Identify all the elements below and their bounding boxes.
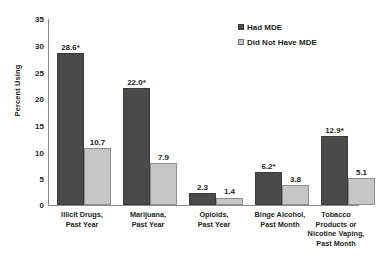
legend-item-no-mde[interactable]: Did Not Have MDE xyxy=(238,37,317,47)
x-label-line: Nicotine Vaping, xyxy=(305,229,367,239)
bar-value-no-mde-opioids: 1.4 xyxy=(206,187,253,196)
x-label-tobacco: Tobacco Products or Nicotine Vaping, Pas… xyxy=(305,210,367,248)
y-tick-10: 10 xyxy=(24,150,44,158)
x-label-line: Past Month xyxy=(305,239,367,249)
y-axis-title: Percent Using xyxy=(13,36,22,146)
bar-had-mde-marijuana[interactable] xyxy=(123,88,150,205)
bar-had-mde-illicit-drugs[interactable] xyxy=(57,53,84,205)
bar-no-mde-opioids[interactable] xyxy=(216,198,243,205)
bar-value-no-mde-marijuana: 7.9 xyxy=(140,153,187,162)
bar-no-mde-illicit-drugs[interactable] xyxy=(84,148,111,205)
legend-label-had-mde: Had MDE xyxy=(247,23,282,32)
y-tick-25: 25 xyxy=(24,70,44,78)
y-axis-tick-labels: 35 30 25 20 15 10 5 0 xyxy=(22,0,44,267)
y-tick-0: 0 xyxy=(24,202,44,210)
light-square-swatch-icon xyxy=(238,39,244,45)
bar-value-had-mde-marijuana: 22.0* xyxy=(113,78,160,87)
y-tick-20: 20 xyxy=(24,96,44,104)
legend: Had MDE Did Not Have MDE xyxy=(238,22,317,52)
legend-item-had-mde[interactable]: Had MDE xyxy=(238,22,317,32)
bar-value-no-mde-binge-alcohol: 3.8 xyxy=(272,175,319,184)
y-tick-5: 5 xyxy=(24,176,44,184)
x-label-line: Products or xyxy=(305,220,367,230)
bar-no-mde-marijuana[interactable] xyxy=(150,163,177,205)
x-axis-line xyxy=(48,205,359,206)
bar-value-no-mde-tobacco: 5.1 xyxy=(338,168,379,177)
bar-value-had-mde-tobacco: 12.9* xyxy=(311,126,358,135)
dark-square-swatch-icon xyxy=(238,24,244,30)
bar-value-had-mde-binge-alcohol: 6.2* xyxy=(245,162,292,171)
bar-no-mde-binge-alcohol[interactable] xyxy=(282,185,309,205)
bar-value-had-mde-illicit-drugs: 28.6* xyxy=(47,43,94,52)
y-tick-30: 30 xyxy=(24,43,44,51)
x-label-line: Tobacco xyxy=(305,210,367,220)
legend-label-no-mde: Did Not Have MDE xyxy=(247,38,317,47)
bar-no-mde-tobacco[interactable] xyxy=(348,178,375,205)
y-tick-15: 15 xyxy=(24,123,44,131)
y-tick-35: 35 xyxy=(24,16,44,24)
bar-value-no-mde-illicit-drugs: 10.7 xyxy=(74,138,121,147)
